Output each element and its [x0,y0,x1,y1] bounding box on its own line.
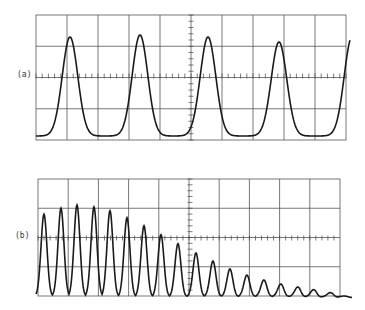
signal-trace [36,35,350,136]
panel-a-label: (a) [17,70,31,79]
panel-a [36,15,350,140]
panel-b-label: (b) [15,231,29,240]
oscilloscope-traces [0,0,365,310]
panel-b [36,179,352,298]
signal-trace [36,205,352,298]
